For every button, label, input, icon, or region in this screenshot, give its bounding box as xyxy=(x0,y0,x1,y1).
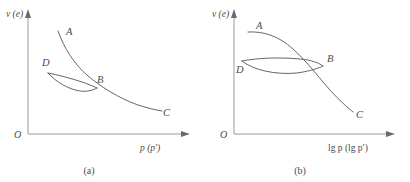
point-label-b-A: A xyxy=(255,20,263,31)
point-label-a-B: B xyxy=(97,74,104,85)
caption-b: (b) xyxy=(294,165,306,177)
panel-b: A B C D v (e) lg p (lg p′) O (b) xyxy=(205,0,410,182)
curve-abc-a xyxy=(58,31,162,111)
curve-db-lower-a xyxy=(48,73,97,91)
panel-b-plot: A B C D v (e) lg p (lg p′) O (b) xyxy=(205,0,410,182)
y-axis-arrowhead-b xyxy=(231,9,237,18)
point-label-a-D: D xyxy=(41,57,50,68)
origin-label-b: O xyxy=(220,129,227,140)
origin-label-a: O xyxy=(14,129,21,140)
panel-a-plot: A B C D v (e) p (p′) O (a) xyxy=(0,0,205,182)
point-label-a-A: A xyxy=(65,26,73,37)
x-axis-label-a: p (p′) xyxy=(139,143,160,154)
figure-root: A B C D v (e) p (p′) O (a) xyxy=(0,0,410,182)
y-axis-arrowhead-a xyxy=(25,9,31,18)
x-axis-arrowhead-a xyxy=(181,131,190,137)
curve-db-upper-b xyxy=(242,58,323,66)
point-label-b-C: C xyxy=(356,109,364,120)
y-axis-label-a: v (e) xyxy=(6,9,23,20)
caption-a: (a) xyxy=(83,165,94,177)
point-label-a-C: C xyxy=(163,107,171,118)
panel-a: A B C D v (e) p (p′) O (a) xyxy=(0,0,205,182)
point-label-b-B: B xyxy=(327,53,334,64)
point-label-b-D: D xyxy=(235,64,244,75)
curve-abc-b xyxy=(248,32,353,112)
y-axis-label-b: v (e) xyxy=(212,9,229,20)
x-axis-label-b: lg p (lg p′) xyxy=(328,143,368,154)
x-axis-arrowhead-b xyxy=(386,131,395,137)
